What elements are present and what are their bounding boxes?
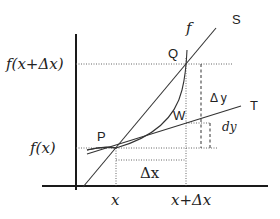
label-delta-x: Δx xyxy=(140,164,160,182)
label-y-low: f(x) xyxy=(29,139,56,157)
derivative-diagram: f(x+Δx) f(x) x x+Δx f S T Q P W Δx Δ y d… xyxy=(0,0,280,219)
label-point-p: P xyxy=(97,129,106,144)
label-point-w: W xyxy=(173,108,186,123)
label-dy: dy xyxy=(222,120,237,134)
label-tangent-t: T xyxy=(250,98,258,113)
dashed-markers xyxy=(201,64,210,148)
label-x-low: x xyxy=(111,191,120,209)
label-point-q: Q xyxy=(168,46,178,61)
label-curve-f: f xyxy=(185,19,194,37)
label-x-high: x+Δx xyxy=(171,191,212,209)
label-y-high: f(x+Δx) xyxy=(5,55,64,73)
label-delta-y: Δ y xyxy=(210,91,227,105)
label-secant-s: S xyxy=(232,12,241,27)
